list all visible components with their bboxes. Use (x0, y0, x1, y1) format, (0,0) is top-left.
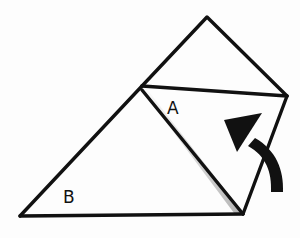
origami-fold-diagram: A B (0, 0, 300, 238)
left-edge (20, 86, 142, 216)
fold-line-upper (142, 86, 287, 96)
diagonal-crease (142, 90, 243, 214)
top-flap-outline (142, 17, 287, 96)
flap-a-label: A (167, 98, 179, 118)
fold-arrow-icon (224, 113, 283, 192)
flap-b-label: B (63, 187, 75, 207)
bottom-edge (20, 214, 243, 216)
